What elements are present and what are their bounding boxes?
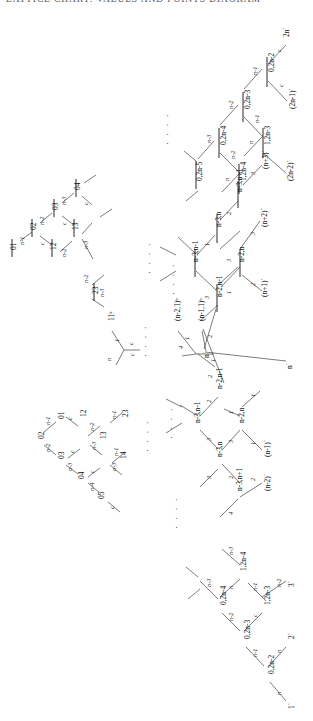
edge-label: c [277,84,284,87]
edge-label: n-2 [88,422,95,431]
vertex-label: n˙ [202,352,211,358]
vertex-label: 23 [121,409,130,417]
edge-label: n-3 [98,288,105,297]
running-header: LATTICE CHART: VALUES AND POINTS DIAGRAM [0,0,313,9]
vertex-label: 02 [29,222,38,230]
vertex-label: n-2,n [237,407,246,423]
vertex-label: n-2,n-1 [215,275,224,297]
ellipsis: · · · · [166,406,176,439]
vertex-label: n˙ [285,363,294,369]
edge-label: 2 [205,399,212,403]
vertex-label: n-2,n-1 [215,367,224,389]
vertex-label: 13 [99,431,108,439]
vertex-label: (n-1)˙ [263,440,272,457]
edge-label: n-3 [205,578,212,587]
edge-label: 3 [227,440,234,444]
edge-label: n-3 [82,240,89,249]
edge-label: n-2 [227,100,234,109]
vertex-label: n-2,n [237,246,246,262]
edge-label: 1 [113,339,120,342]
vertex-label: 13 [71,222,80,230]
vertex-label: 11ᵇ [107,311,116,321]
vertex-label: n-3,n+1 [235,467,244,491]
edge-label: n-1 [44,416,51,425]
vertex-label: 04 [77,471,86,479]
vertex-label: 03 [57,451,66,459]
edge-label: c [127,342,134,345]
edge-label: c [275,49,282,52]
vertex-label: 04 [73,182,82,190]
vertex-label: (n-1,1)ᵇ [197,298,206,321]
vertex-label: (2n-2)˙ [286,160,295,181]
edge-label: c [68,450,75,453]
vertex-label: 12 [79,409,88,417]
edge-label: c [66,417,73,420]
edge-label: 2 [206,334,213,338]
edge-label: n-3 [205,134,212,143]
vertex-label: (n+1)˙ [260,278,269,297]
edge-label: 2 [249,477,256,481]
edge-label: 4 [227,511,234,515]
edge-label: n-1 [251,66,258,75]
edge-label: c [38,242,45,245]
vertex-label: n-3,n+1 [235,168,244,192]
edge-label: n-2 [229,150,236,159]
edge-label: n [247,141,254,144]
vertex-label: 1,2n-3 [263,126,272,145]
edge-label: c [60,222,67,225]
edge-label: 1 [225,291,232,294]
edge-label: n-1 [253,114,260,123]
edge-label: n [275,692,282,695]
edge-label: c [128,353,135,356]
edge-label: 1 [183,337,190,340]
vertex-label: n-3,n [214,211,223,227]
vertex-label: 2˙ [287,633,296,639]
edge-label: n [105,358,112,361]
edge-label: n-1 [18,236,25,245]
vertex-label: (n-2,1)ᵇ [173,298,182,321]
edge-label: 3 [249,232,256,236]
vertex-label: 14 [119,451,128,459]
vertex-label: (2n-1)˙ [288,88,297,109]
ellipsis: · · · · [168,262,178,295]
edge-label: n-2 [44,443,51,452]
edge-label: 3 [225,259,232,263]
vertex-label: 1,2n-4 [239,552,248,571]
edge-label: 3 [205,438,212,442]
vertex-label: 03 [51,202,60,210]
edge-label: 2 [249,282,256,286]
vertex-label: 0,2n-2 [267,53,276,72]
ellipsis: · · · · [171,496,181,529]
edge-label: 4 [177,345,184,349]
edge-label: n-1 [251,582,258,591]
edge-label: n-1 [112,447,119,456]
vertex-label: 0,2n-3 [243,620,252,639]
ellipsis: · · · · [142,419,152,452]
edge-label: c [88,470,95,473]
edge-label: n-2 [60,248,67,257]
cluster-center-hub: 11ᵇ (n-2,1)ᵇ (n-1,1)ᵇ n˙ n˙ 1 c n 1 2 4 … [105,298,294,383]
vertex-label: (n+2)˙ [260,208,269,227]
edge-label: 2 [225,211,232,215]
vertex-label: 12 [49,242,58,250]
vertex-label: 0,2n-3 [243,90,252,109]
edge-label: 3 [205,476,212,480]
edge-label: 3 [249,172,256,176]
lattice-diagram: 2n˙ 0,2n-2 (2n-1)˙ 0,2n-3 1,2n-3 (2n-2)˙… [0,9,313,721]
vertex-label: n-3,n [215,441,224,457]
edge-label: 1 [249,394,256,397]
ellipsis: · · · · [140,324,150,357]
edge-label: n-3 [110,462,117,471]
edge-label: 1 [209,359,216,362]
vertex-label: 01 [9,242,18,250]
vertex-label: n-3,n-1 [191,240,200,262]
cluster-mid-right-unbarred: n-3,n-1 n-3,n n-3,n+1 n-2,n-1 n-2,n (n-1… [180,367,272,517]
inter-cluster-connectors [84,151,200,599]
edge-label: n-3 [90,441,97,450]
edge-label: n-3 [60,196,67,205]
edge-label: c [82,202,89,205]
edge-label: n-4 [88,482,95,491]
edge-label: n-2 [82,274,89,283]
vertex-label: 01 [57,411,66,419]
vertex-label: 2n˙ [282,27,291,37]
